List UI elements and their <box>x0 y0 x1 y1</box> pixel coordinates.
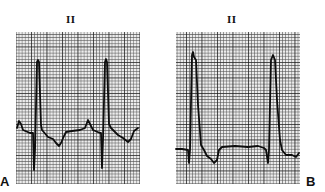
ecg-panel-a <box>16 32 140 184</box>
panel-letter-b: B <box>306 174 315 189</box>
lead-label-a: II <box>66 13 76 25</box>
ecg-panel-b <box>176 32 300 184</box>
ecg-figure <box>0 0 325 192</box>
panel-letter-a: A <box>0 174 9 189</box>
lead-label-b: II <box>227 13 237 25</box>
